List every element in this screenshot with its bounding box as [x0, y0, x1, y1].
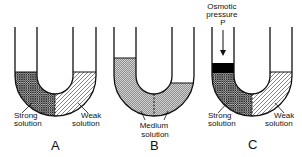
- panel-a: Strong solution Weak solution A: [14, 27, 104, 153]
- label-osmotic-pressure: Osmotic pressure P: [206, 2, 239, 27]
- arrow-down-icon: [220, 50, 226, 56]
- panel-letter-c: C: [248, 137, 257, 152]
- label-weak-solution-c: Weak solution: [265, 111, 297, 128]
- medium-solution-fill: [114, 58, 194, 116]
- label-weak-solution-a: Weak solution: [72, 111, 104, 128]
- panel-b: Medium solution B: [114, 27, 194, 153]
- label-strong-solution-a: Strong solution: [14, 111, 42, 128]
- osmosis-u-tube-diagram: Strong solution Weak solution A Medium s…: [0, 0, 302, 157]
- panel-letter-a: A: [51, 138, 60, 153]
- panel-c: Osmotic pressure P Strong solution Weak …: [206, 2, 296, 152]
- piston: [212, 63, 234, 73]
- label-strong-solution-c: Strong solution: [208, 111, 236, 128]
- panel-letter-b: B: [150, 138, 159, 153]
- label-medium-solution: Medium solution: [140, 121, 171, 139]
